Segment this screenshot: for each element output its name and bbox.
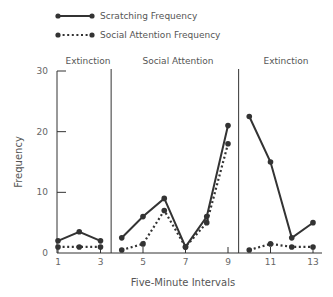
data-point-marker-icon xyxy=(98,238,104,244)
x-tick-label: 7 xyxy=(183,257,189,267)
series-scratching xyxy=(55,114,316,250)
data-point-marker-icon xyxy=(204,220,210,226)
data-point-marker-icon xyxy=(161,196,167,202)
x-axis-title: Five-Minute Intervals xyxy=(131,277,235,288)
x-axis: 135791113 xyxy=(55,247,322,267)
y-tick-label: 10 xyxy=(37,187,49,197)
series-line xyxy=(249,117,313,238)
data-point-marker-icon xyxy=(246,247,252,253)
x-tick-label: 3 xyxy=(98,257,104,267)
data-point-marker-icon xyxy=(310,244,316,250)
y-axis: 0102030 xyxy=(37,66,66,258)
legend-marker-icon xyxy=(55,32,60,37)
x-tick-label: 9 xyxy=(225,257,231,267)
data-point-marker-icon xyxy=(225,123,231,129)
data-point-marker-icon xyxy=(119,235,125,241)
data-point-marker-icon xyxy=(268,241,274,247)
y-axis-title: Frequency xyxy=(13,136,24,188)
data-point-marker-icon xyxy=(310,220,316,226)
legend-item-scratching: Scratching Frequency xyxy=(55,11,198,21)
y-tick-label: 20 xyxy=(37,127,49,137)
legend-marker-icon xyxy=(89,32,94,37)
data-point-marker-icon xyxy=(76,229,82,235)
data-point-marker-icon xyxy=(246,114,252,120)
phase-label-extinction-2: Extinction xyxy=(264,56,309,66)
data-point-marker-icon xyxy=(268,159,274,165)
data-point-marker-icon xyxy=(119,247,125,253)
legend-item-social-attention: Social Attention Frequency xyxy=(55,30,221,40)
series-social-attention xyxy=(55,141,316,253)
legend-label: Scratching Frequency xyxy=(100,11,198,21)
series-line xyxy=(122,126,228,247)
data-point-marker-icon xyxy=(140,214,146,220)
legend-marker-icon xyxy=(89,13,94,18)
legend-marker-icon xyxy=(55,13,60,18)
legend: Scratching Frequency Social Attention Fr… xyxy=(55,11,221,40)
data-point-marker-icon xyxy=(76,244,82,250)
data-point-marker-icon xyxy=(225,141,231,147)
x-tick-label: 1 xyxy=(55,257,61,267)
x-tick-label: 5 xyxy=(140,257,146,267)
phase-label-social-attention: Social Attention xyxy=(142,56,213,66)
data-point-marker-icon xyxy=(140,241,146,247)
data-point-marker-icon xyxy=(55,244,61,250)
data-point-marker-icon xyxy=(183,244,189,250)
data-point-marker-icon xyxy=(55,238,61,244)
legend-label: Social Attention Frequency xyxy=(100,30,221,40)
data-point-marker-icon xyxy=(289,244,295,250)
x-tick-label: 13 xyxy=(307,257,318,267)
data-point-marker-icon xyxy=(161,208,167,214)
data-point-marker-icon xyxy=(98,244,104,250)
series-line xyxy=(249,244,313,250)
line-chart: Scratching Frequency Social Attention Fr… xyxy=(0,0,333,297)
y-tick-label: 0 xyxy=(42,248,48,258)
x-tick-label: 11 xyxy=(265,257,276,267)
data-point-marker-icon xyxy=(289,235,295,241)
phase-label-extinction-1: Extinction xyxy=(66,56,111,66)
y-tick-label: 30 xyxy=(37,66,49,76)
